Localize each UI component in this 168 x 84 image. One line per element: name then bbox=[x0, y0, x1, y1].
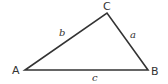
vertex-label-a: A bbox=[12, 64, 20, 77]
side-label-a: a bbox=[130, 29, 136, 40]
side-label-c: c bbox=[92, 72, 98, 83]
vertex-label-b: B bbox=[151, 65, 159, 78]
triangle-diagram: A B C a b c bbox=[0, 0, 168, 84]
vertex-label-c: C bbox=[103, 0, 111, 13]
triangle-shape bbox=[25, 13, 148, 70]
side-label-b: b bbox=[59, 27, 65, 38]
